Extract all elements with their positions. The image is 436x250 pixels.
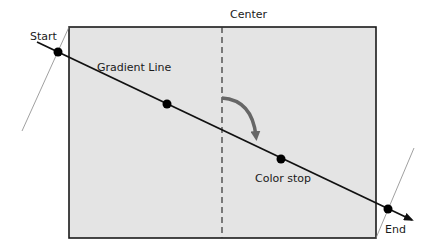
end-point bbox=[384, 205, 393, 214]
center-label: Center bbox=[230, 8, 268, 21]
start-label: Start bbox=[30, 30, 58, 43]
color-stop-point bbox=[277, 155, 286, 164]
end-label: End bbox=[385, 223, 406, 236]
gradient-diagram: Center Start Gradient Line Color stop En… bbox=[0, 0, 436, 250]
start-point bbox=[54, 48, 63, 57]
gradient-line-label: Gradient Line bbox=[97, 61, 172, 74]
midpoint-stop bbox=[163, 100, 172, 109]
color-stop-label: Color stop bbox=[255, 172, 311, 185]
